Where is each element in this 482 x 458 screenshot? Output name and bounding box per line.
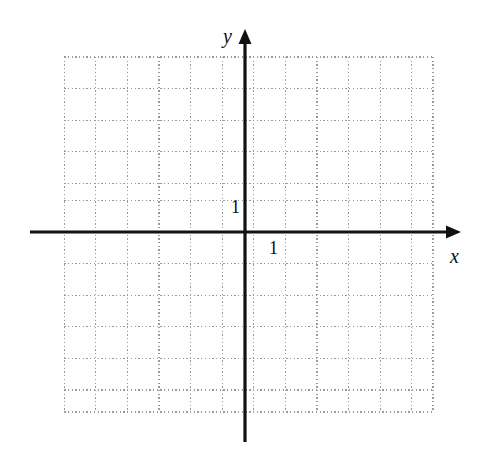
- x-axis-unit-tick-label: 1: [269, 239, 278, 257]
- coordinate-plane-svg: [0, 0, 482, 458]
- y-axis: [239, 29, 252, 442]
- y-axis-label: y: [223, 26, 232, 46]
- grid-lines-horizontal: [64, 57, 433, 412]
- grid-lines-vertical: [64, 57, 433, 412]
- y-axis-unit-tick-label: 1: [231, 198, 240, 216]
- x-axis-label: x: [450, 246, 459, 266]
- coordinate-grid-figure: y x 1 1: [0, 0, 482, 458]
- grid-lines: [64, 57, 433, 412]
